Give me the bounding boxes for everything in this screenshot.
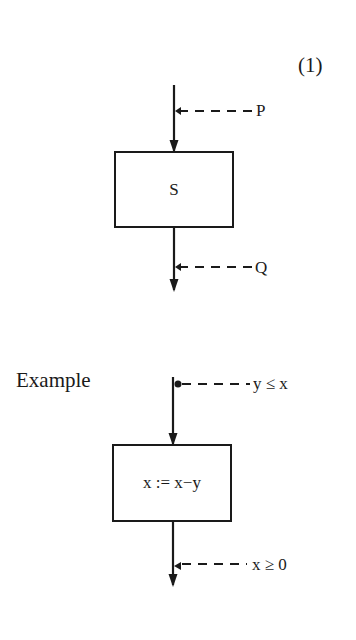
flowchart-lines [0, 0, 356, 640]
diagram1-statement-box: S [114, 151, 234, 228]
example-statement-box: x := x−y [112, 444, 232, 522]
example-pre-pointer [175, 381, 182, 388]
example-precondition-label: y ≤ x [253, 375, 288, 392]
diagram1-precondition-label: P [256, 102, 265, 119]
diagram1-statement-label: S [169, 180, 178, 200]
equation-number: (1) [298, 55, 323, 76]
example-heading: Example [16, 370, 91, 391]
example-statement-label: x := x−y [143, 473, 201, 493]
diagram1-postcondition-label: Q [255, 259, 267, 276]
example-post-pointer [174, 562, 181, 570]
example-outgoing-arrowhead [169, 574, 178, 587]
example-postcondition-label: x ≥ 0 [252, 556, 287, 573]
diagram1-outgoing-arrowhead [170, 279, 179, 292]
